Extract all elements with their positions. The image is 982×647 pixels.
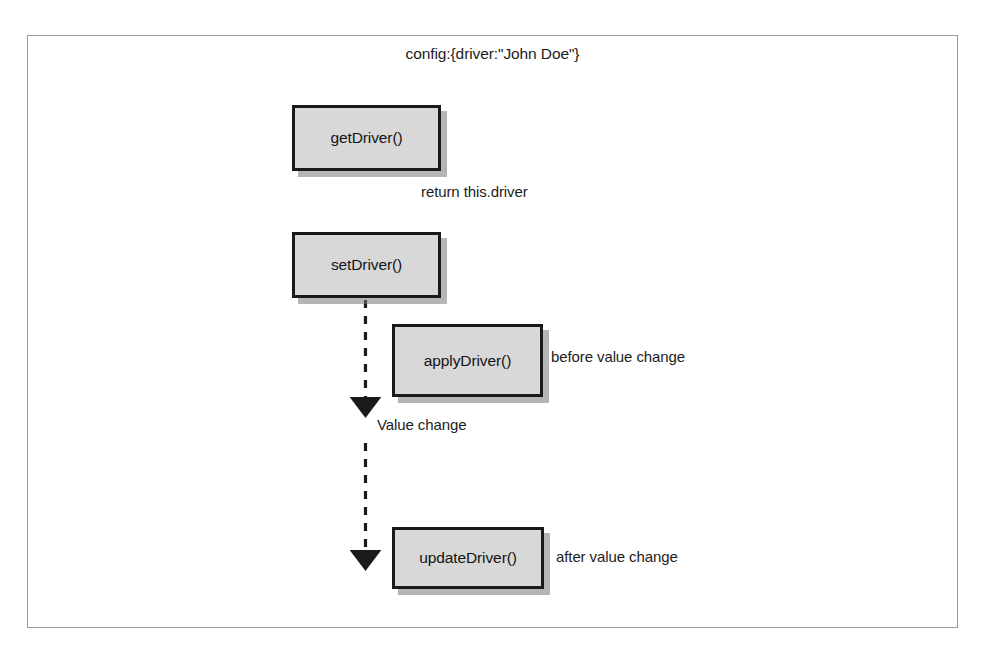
node-updatedriver-label: updateDriver() <box>419 549 517 567</box>
annotation-return-this-driver: return this.driver <box>421 183 528 200</box>
node-getdriver[interactable]: getDriver() <box>292 105 441 171</box>
node-applydriver-label: applyDriver() <box>424 352 511 370</box>
node-setdriver[interactable]: setDriver() <box>292 232 441 298</box>
node-getdriver-label: getDriver() <box>330 129 402 147</box>
annotation-before-value-change: before value change <box>551 348 685 365</box>
node-updatedriver[interactable]: updateDriver() <box>392 527 544 589</box>
node-setdriver-label: setDriver() <box>331 256 402 274</box>
diagram-canvas: config:{driver:"John Doe"} getDriver() s… <box>0 0 982 647</box>
node-applydriver[interactable]: applyDriver() <box>392 324 543 397</box>
diagram-title: config:{driver:"John Doe"} <box>27 45 958 63</box>
annotation-after-value-change: after value change <box>556 548 678 565</box>
annotation-value-change: Value change <box>377 416 466 433</box>
